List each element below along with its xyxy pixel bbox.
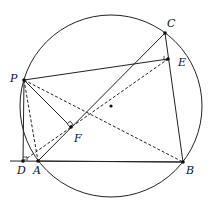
point-C <box>163 31 167 35</box>
point-D <box>21 159 25 163</box>
point-B <box>181 160 185 164</box>
point-P <box>22 78 26 82</box>
dashed-PB <box>24 80 183 162</box>
segment-PE <box>24 59 168 80</box>
label-C: C <box>167 17 176 30</box>
label-A: A <box>32 164 41 177</box>
label-F: F <box>73 132 82 145</box>
label-E: E <box>177 56 186 69</box>
center-dot <box>109 104 112 107</box>
segment-AB <box>38 161 183 162</box>
dashed-DE <box>23 59 168 161</box>
label-P: P <box>9 72 18 85</box>
label-D: D <box>16 164 26 177</box>
geometry-diagram: PCEFDAB <box>0 0 211 203</box>
label-B: B <box>185 164 194 177</box>
segment-CB <box>165 33 183 162</box>
solid-segments <box>10 33 183 162</box>
point-F <box>69 125 73 129</box>
segment-PD <box>23 80 24 161</box>
point-A <box>36 159 40 163</box>
dashed-segments <box>23 59 183 162</box>
point-E <box>166 57 170 61</box>
points <box>21 31 185 164</box>
